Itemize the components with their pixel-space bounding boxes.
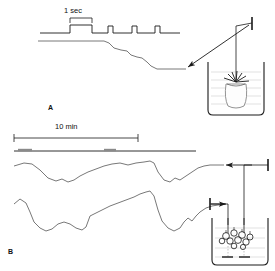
panel-b-group: [14, 134, 268, 265]
panel-a-group: [38, 17, 264, 115]
figure-canvas: [0, 0, 275, 271]
event-marker-line: [14, 150, 196, 151]
panel-a-label: A: [48, 104, 53, 111]
panel-b-beaker: [212, 218, 268, 265]
panel-b-scale-bar: [14, 134, 138, 142]
transducer-crossbar: [236, 23, 252, 26]
panel-a-scale-bracket: [70, 18, 92, 23]
stimulus-pulse-train: [40, 25, 180, 33]
panel-b-label: B: [8, 248, 13, 255]
panel-a-scale-label: 1 sec: [64, 6, 82, 15]
contraction-response-trace: [38, 41, 186, 69]
colony-trace-upper: [14, 161, 224, 182]
sea-anemone-icon: [224, 71, 249, 108]
panel-b-scale-label: 10 min: [55, 122, 78, 131]
panel-a-beaker: [208, 62, 264, 115]
figure-container: 1 sec 10 min A B: [0, 0, 275, 271]
colony-trace-lower: [14, 191, 225, 231]
panel-a-arrow: [188, 25, 249, 67]
